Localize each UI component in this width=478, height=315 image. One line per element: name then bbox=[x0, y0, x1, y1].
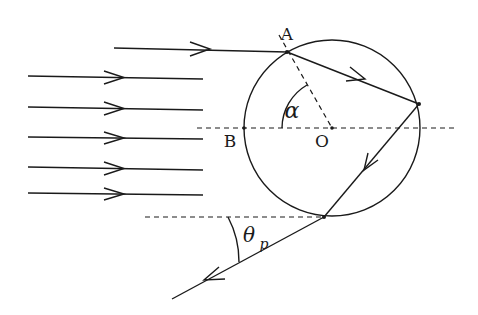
label-o: O bbox=[315, 131, 329, 151]
arrow-icon bbox=[204, 267, 225, 280]
incident-ray bbox=[28, 107, 203, 110]
incident-ray bbox=[28, 167, 203, 170]
reflected-ray bbox=[324, 104, 419, 217]
incident-ray-top bbox=[114, 48, 287, 52]
reflection-point-dot bbox=[417, 102, 421, 106]
incident-ray bbox=[28, 137, 203, 139]
label-theta: θ bbox=[243, 223, 255, 247]
incident-rays bbox=[28, 42, 287, 200]
point-o-dot bbox=[330, 126, 334, 130]
droplet-ray-diagram: A B O α θ p bbox=[0, 0, 478, 315]
label-a: A bbox=[280, 24, 294, 44]
theta-angle-arc bbox=[228, 217, 239, 262]
point-b-dot bbox=[242, 126, 246, 130]
point-a-dot bbox=[285, 50, 289, 54]
label-b: B bbox=[224, 131, 237, 151]
refracted-ray bbox=[287, 52, 419, 104]
incident-ray bbox=[28, 193, 203, 195]
label-theta-subscript: p bbox=[260, 236, 269, 252]
exit-point-dot bbox=[322, 215, 326, 219]
incident-ray bbox=[28, 76, 203, 79]
arrow-icon bbox=[190, 42, 210, 56]
label-alpha: α bbox=[285, 98, 300, 123]
